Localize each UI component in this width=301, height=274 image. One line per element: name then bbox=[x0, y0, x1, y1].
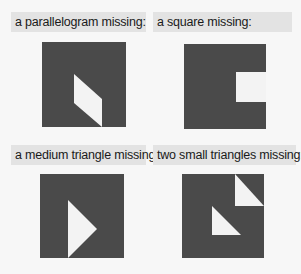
missing-square-shape bbox=[236, 72, 266, 102]
panel-label: a square missing: bbox=[153, 12, 292, 32]
panel-label: two small triangles missing: bbox=[153, 145, 296, 165]
tangram-square-parallelogram-missing bbox=[42, 42, 126, 127]
panel-label: a medium triangle missing: bbox=[11, 145, 146, 165]
tangram-square-medium-triangle-missing bbox=[40, 174, 124, 258]
panel-label: a parallelogram missing: bbox=[11, 12, 146, 32]
tangram-square-two-small-triangles-missing bbox=[182, 174, 264, 258]
tangram-square-square-missing bbox=[184, 44, 266, 129]
